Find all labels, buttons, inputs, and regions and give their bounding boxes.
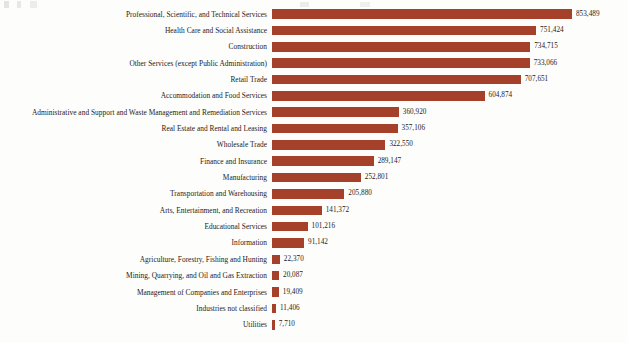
category-label: Agriculture, Forestry, Fishing and Hunti… — [0, 255, 272, 264]
value-label: 7,710 — [275, 320, 295, 329]
category-label: Educational Services — [0, 222, 272, 231]
chart-row: Management of Companies and Enterprises1… — [0, 284, 628, 300]
chart-rows: Professional, Scientific, and Technical … — [0, 6, 628, 333]
bar-area: 604,874 — [272, 88, 628, 104]
value-label: 322,550 — [385, 140, 413, 149]
bar — [272, 271, 279, 281]
bar-area: 22,370 — [272, 251, 628, 267]
category-label: Professional, Scientific, and Technical … — [0, 10, 272, 19]
value-label: 205,880 — [344, 189, 372, 198]
bar — [272, 107, 399, 117]
value-label: 91,142 — [304, 238, 328, 247]
chart-row: Information91,142 — [0, 235, 628, 251]
category-label: Arts, Entertainment, and Recreation — [0, 206, 272, 215]
value-label: 604,874 — [485, 91, 513, 100]
bar-area: 733,066 — [272, 55, 628, 71]
chart-row: Professional, Scientific, and Technical … — [0, 6, 628, 22]
bar-area: 7,710 — [272, 317, 628, 333]
chart-row: Retail Trade707,651 — [0, 71, 628, 87]
chart-row: Utilities7,710 — [0, 317, 628, 333]
category-label: Other Services (except Public Administra… — [0, 59, 272, 68]
bar-area: 19,409 — [272, 284, 628, 300]
bar — [272, 222, 308, 232]
bar — [272, 9, 572, 19]
bar — [272, 189, 344, 199]
bar — [272, 140, 385, 150]
bar — [272, 173, 361, 183]
value-label: 19,409 — [279, 288, 303, 297]
value-label: 141,372 — [322, 206, 350, 215]
category-label: Accommodation and Food Services — [0, 91, 272, 100]
bar-area: 11,406 — [272, 300, 628, 316]
horizontal-bar-chart: Professional, Scientific, and Technical … — [0, 0, 628, 343]
chart-row: Wholesale Trade322,550 — [0, 137, 628, 153]
value-label: 357,106 — [398, 124, 426, 133]
bar-area: 322,550 — [272, 137, 628, 153]
chart-row: Real Estate and Rental and Leasing357,10… — [0, 120, 628, 136]
category-label: Health Care and Social Assistance — [0, 26, 272, 35]
category-label: Wholesale Trade — [0, 140, 272, 149]
category-label: Finance and Insurance — [0, 157, 272, 166]
bar-area: 734,715 — [272, 39, 628, 55]
value-label: 101,216 — [308, 222, 336, 231]
bar-area: 751,424 — [272, 22, 628, 38]
bar — [272, 75, 521, 85]
bar — [272, 238, 304, 248]
bar-area: 20,087 — [272, 268, 628, 284]
chart-row: Industries not classified11,406 — [0, 300, 628, 316]
chart-row: Construction734,715 — [0, 39, 628, 55]
category-label: Information — [0, 238, 272, 247]
category-label: Construction — [0, 42, 272, 51]
bar-area: 360,920 — [272, 104, 628, 120]
chart-row: Accommodation and Food Services604,874 — [0, 88, 628, 104]
value-label: 360,920 — [399, 108, 427, 117]
chart-row: Educational Services101,216 — [0, 218, 628, 234]
bar-area: 707,651 — [272, 71, 628, 87]
bar-area: 289,147 — [272, 153, 628, 169]
chart-row: Arts, Entertainment, and Recreation141,3… — [0, 202, 628, 218]
bar — [272, 156, 374, 166]
chart-row: Manufacturing252,801 — [0, 169, 628, 185]
category-label: Retail Trade — [0, 75, 272, 84]
chart-row: Transportation and Warehousing205,880 — [0, 186, 628, 202]
bar — [272, 287, 279, 297]
bar — [272, 255, 280, 265]
category-label: Manufacturing — [0, 173, 272, 182]
chart-row: Other Services (except Public Administra… — [0, 55, 628, 71]
bar-area: 101,216 — [272, 218, 628, 234]
value-label: 20,087 — [279, 271, 303, 280]
bar-area: 141,372 — [272, 202, 628, 218]
chart-row: Agriculture, Forestry, Fishing and Hunti… — [0, 251, 628, 267]
value-label: 751,424 — [536, 26, 564, 35]
bar-area: 205,880 — [272, 186, 628, 202]
category-label: Mining, Quarrying, and Oil and Gas Extra… — [0, 271, 272, 280]
category-label: Administrative and Support and Waste Man… — [0, 108, 272, 117]
category-label: Real Estate and Rental and Leasing — [0, 124, 272, 133]
bar-area: 91,142 — [272, 235, 628, 251]
category-label: Industries not classified — [0, 304, 272, 313]
value-label: 853,489 — [572, 10, 600, 19]
value-label: 734,715 — [530, 42, 558, 51]
value-label: 22,370 — [280, 255, 304, 264]
category-label: Transportation and Warehousing — [0, 189, 272, 198]
category-label: Management of Companies and Enterprises — [0, 288, 272, 297]
value-label: 11,406 — [276, 304, 300, 313]
value-label: 289,147 — [374, 157, 402, 166]
bar-area: 252,801 — [272, 169, 628, 185]
bar — [272, 206, 322, 216]
bar-area: 853,489 — [272, 6, 628, 22]
bar — [272, 26, 536, 36]
chart-row: Health Care and Social Assistance751,424 — [0, 22, 628, 38]
bar-area: 357,106 — [272, 120, 628, 136]
value-label: 707,651 — [521, 75, 549, 84]
chart-row: Finance and Insurance289,147 — [0, 153, 628, 169]
category-label: Utilities — [0, 320, 272, 329]
bar — [272, 124, 398, 134]
value-label: 733,066 — [530, 59, 558, 68]
value-label: 252,801 — [361, 173, 389, 182]
chart-row: Mining, Quarrying, and Oil and Gas Extra… — [0, 268, 628, 284]
bar — [272, 91, 485, 101]
bar — [272, 58, 530, 68]
chart-row: Administrative and Support and Waste Man… — [0, 104, 628, 120]
bar — [272, 42, 530, 52]
